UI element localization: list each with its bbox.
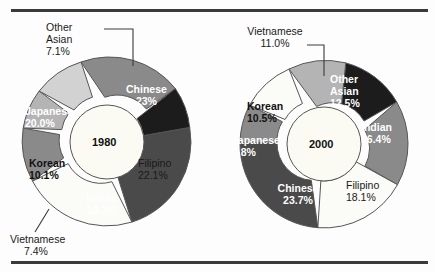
label-1980-other-asian-line1: Other: [46, 22, 72, 34]
label-1980-other-asian-pct: 7.1%: [46, 46, 72, 58]
label-2000-other-asian: Other Asian 12.5%: [330, 74, 360, 109]
leader-line-1980-other-asian: [104, 29, 133, 66]
label-1980-chinese: Chinese 23%: [126, 84, 167, 108]
label-1980-japanese: Japanese 20.0%: [25, 106, 73, 130]
label-2000-japanese-name: Japanese: [232, 135, 280, 147]
label-2000-other-asian-line2: Asian: [330, 86, 360, 98]
label-2000-vietnamese-pct: 11.0%: [243, 38, 307, 50]
label-1980-vietnamese-name: Vietnamese: [10, 234, 65, 246]
label-2000-indian-name: Indian: [361, 122, 392, 134]
label-2000-indian-pct: 16.4%: [361, 134, 392, 146]
label-1980-vietnamese-pct: 7.4%: [10, 246, 65, 258]
label-1980-other-asian: Other Asian 7.1%: [46, 22, 72, 57]
label-1980-filipino: Filipino 22.1%: [138, 158, 171, 182]
slice-1980-korean: [39, 62, 92, 110]
label-2000-vietnamese: Vietnamese 11.0%: [243, 26, 307, 50]
label-2000-chinese: Chinese 23.7%: [267, 183, 329, 207]
bottom-rule: [11, 261, 428, 264]
leader-line-2000-vietnamese: [307, 45, 324, 76]
label-2000-filipino: Filipino 18.1%: [346, 180, 379, 204]
label-2000-chinese-name: Chinese: [267, 183, 329, 195]
label-2000-other-asian-pct: 12.5%: [330, 98, 360, 110]
label-2000-filipino-name: Filipino: [346, 180, 379, 192]
label-1980-indian-name: Indian: [86, 193, 117, 205]
label-1980-chinese-name: Chinese: [126, 84, 167, 96]
label-2000-korean-name: Korean: [247, 101, 283, 113]
label-1980-filipino-pct: 22.1%: [138, 170, 171, 182]
label-2000-indian: Indian 16.4%: [361, 122, 392, 146]
label-1980-korean: Korean 10.1%: [29, 158, 65, 182]
top-rule: [11, 9, 428, 12]
label-1980-korean-name: Korean: [29, 158, 65, 170]
label-1980-indian-pct: 10.3%: [86, 205, 117, 217]
label-2000-filipino-pct: 18.1%: [346, 192, 379, 204]
label-2000-other-asian-line1: Other: [330, 74, 360, 86]
label-1980-indian: Indian 10.3%: [86, 193, 117, 217]
label-1980-korean-pct: 10.1%: [29, 170, 65, 182]
label-1980-other-asian-line2: Asian: [46, 34, 72, 46]
label-1980-japanese-pct: 20.0%: [25, 118, 73, 130]
label-2000-korean-pct: 10.5%: [247, 113, 283, 125]
donut-1980-center-label: 1980: [92, 136, 116, 148]
label-1980-japanese-name: Japanese: [25, 106, 73, 118]
label-2000-korean: Korean 10.5%: [247, 101, 283, 125]
leader-line-1980-vietnamese: [35, 209, 49, 232]
label-2000-japanese: Japanese 7.8%: [232, 135, 280, 159]
label-1980-vietnamese: Vietnamese 7.4%: [10, 234, 65, 258]
donut-2000-center-label: 2000: [309, 138, 333, 150]
label-2000-chinese-pct: 23.7%: [267, 195, 329, 207]
label-2000-vietnamese-name: Vietnamese: [243, 26, 307, 38]
label-2000-japanese-pct: 7.8%: [232, 147, 280, 159]
figure-root: Other Asian 7.1% Chinese 23% Filipino 22…: [0, 0, 435, 272]
label-1980-filipino-name: Filipino: [138, 158, 171, 170]
label-1980-chinese-pct: 23%: [126, 96, 167, 108]
